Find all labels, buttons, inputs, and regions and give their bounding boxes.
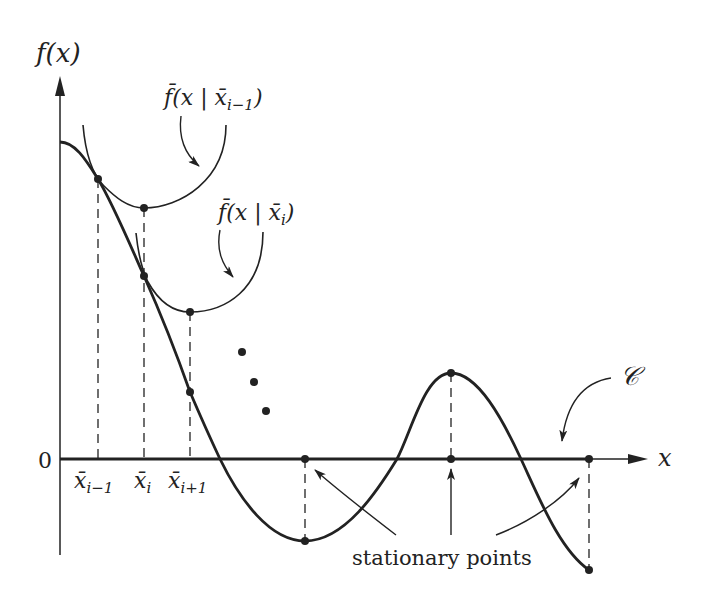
objective-curve bbox=[60, 142, 589, 570]
tick-x-i-minus-1: x̄i−1 bbox=[74, 468, 113, 497]
curve-pointer-arrow-icon bbox=[562, 378, 611, 441]
x-axis-label: x bbox=[658, 444, 672, 472]
pointer-arrow-icon bbox=[219, 230, 233, 277]
surrogate-label-i: f̄(x | x̄i) bbox=[216, 198, 294, 229]
curve-label: 𝒞 bbox=[620, 361, 646, 391]
stationary-points-label: stationary points bbox=[352, 546, 532, 570]
surrogate-label-i-minus-1: f̄(x | x̄i−1) bbox=[162, 83, 262, 114]
majorization-diagram: f(x) x 0 x̄i−1 bbox=[0, 0, 702, 609]
surrogate-curve-i-minus-1 bbox=[83, 125, 226, 208]
dashed-guides bbox=[98, 179, 589, 570]
ellipsis-dots bbox=[238, 348, 270, 415]
y-axis-arrow-icon bbox=[55, 76, 65, 96]
x-tick-labels: x̄i−1 x̄i x̄i+1 bbox=[74, 468, 207, 497]
points bbox=[94, 175, 593, 574]
pointer-arrow-icon bbox=[180, 116, 199, 166]
origin-label: 0 bbox=[38, 448, 52, 473]
y-axis-label: f(x) bbox=[34, 38, 81, 68]
tick-x-i: x̄i bbox=[134, 468, 151, 497]
x-axis-arrow-icon bbox=[628, 454, 648, 464]
stationary-arrow-right-icon bbox=[496, 478, 579, 535]
tick-x-i-plus-1: x̄i+1 bbox=[168, 468, 207, 497]
